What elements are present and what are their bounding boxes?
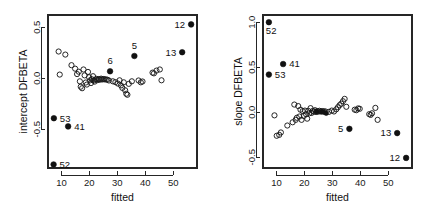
data-point-highlighted: [347, 126, 353, 132]
data-point-open: [56, 49, 61, 54]
y-tick-label: 1.0: [247, 16, 258, 29]
data-point-open: [344, 104, 349, 109]
data-point-open: [375, 117, 380, 122]
y-tick-label: -0.5: [247, 149, 258, 165]
y-tick-label: 0.0: [32, 72, 43, 85]
data-point-highlighted: [403, 155, 409, 161]
data-point-label-53: 53: [275, 69, 286, 80]
data-point-open: [85, 69, 90, 74]
data-point-label-6: 6: [107, 55, 112, 66]
x-axis-title: fitted: [326, 191, 349, 203]
data-point-label-13: 13: [166, 47, 177, 58]
x-tick-label: 10: [56, 177, 67, 188]
data-point-label-5: 5: [132, 40, 137, 51]
y-tick-label: -0.5: [32, 121, 43, 137]
data-point-label-53: 53: [60, 113, 71, 124]
data-point-label-41: 41: [289, 58, 300, 69]
data-point-label-13: 13: [381, 127, 392, 138]
data-point-highlighted: [51, 115, 57, 121]
data-point-solid: [314, 109, 319, 114]
data-point-highlighted: [107, 69, 113, 75]
x-tick-label: 40: [140, 177, 151, 188]
data-point-open: [285, 123, 290, 128]
x-tick-label: 20: [84, 177, 95, 188]
data-point-highlighted: [280, 61, 286, 67]
data-point-label-5: 5: [338, 123, 343, 134]
data-point-highlighted: [266, 19, 272, 25]
plot-frame: [263, 15, 412, 168]
data-point-open: [57, 72, 62, 77]
data-point-highlighted: [266, 72, 272, 78]
data-point-open: [80, 86, 85, 91]
x-tick-label: 30: [327, 177, 338, 188]
panel-slope-dfbeta: 1020304050fitted1.00.50.0-0.5slope DFBET…: [215, 0, 430, 203]
data-point-highlighted: [394, 130, 400, 136]
x-tick-label: 30: [112, 177, 123, 188]
y-axis-title: slope DFBETA: [232, 57, 244, 126]
x-tick-label: 50: [383, 177, 394, 188]
data-point-open: [77, 79, 82, 84]
plot-canvas-right: 1020304050fitted1.00.50.0-0.5slope DFBET…: [215, 0, 430, 203]
data-point-open: [272, 113, 277, 118]
data-point-solid: [324, 111, 329, 116]
y-axis-title: intercept DFBETA: [17, 50, 29, 134]
panel-intercept-dfbeta: 1020304050fitted0.50.0-0.5intercept DFBE…: [0, 0, 215, 203]
data-point-highlighted: [179, 49, 185, 55]
data-point-open: [63, 52, 68, 57]
data-point-open: [159, 78, 164, 83]
x-tick-label: 40: [355, 177, 366, 188]
dfbeta-diagnostic-figure: 1020304050fitted0.50.0-0.5intercept DFBE…: [0, 0, 430, 203]
x-tick-label: 50: [168, 177, 179, 188]
data-point-open: [78, 84, 83, 89]
data-point-highlighted: [188, 22, 194, 28]
data-point-highlighted: [51, 162, 57, 168]
x-tick-label: 20: [299, 177, 310, 188]
data-point-label-41: 41: [74, 121, 85, 132]
x-axis-title: fitted: [111, 191, 134, 203]
data-point-highlighted: [65, 124, 71, 130]
data-point-label-52: 52: [266, 25, 277, 36]
data-point-highlighted: [132, 53, 138, 59]
data-point-label-12: 12: [390, 152, 401, 163]
y-tick-label: 0.5: [247, 61, 258, 74]
data-point-open: [373, 105, 378, 110]
x-tick-label: 10: [271, 177, 282, 188]
data-point-open: [157, 67, 162, 72]
y-tick-label: 0.0: [247, 106, 258, 119]
y-tick-label: 0.5: [32, 21, 43, 34]
data-point-label-12: 12: [175, 19, 186, 30]
plot-canvas-left: 1020304050fitted0.50.0-0.5intercept DFBE…: [0, 0, 215, 203]
data-point-label-52: 52: [60, 159, 71, 170]
